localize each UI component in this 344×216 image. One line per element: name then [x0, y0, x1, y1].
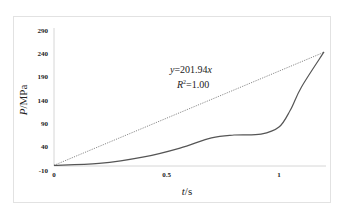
y-axis-label: P/MPa — [17, 85, 29, 117]
x-tick-labels: 00.51 — [52, 171, 281, 179]
y-tick-label: 290 — [38, 27, 49, 35]
r-squared: R2=1.00 — [176, 79, 209, 90]
fit-equation: y=201.94x — [169, 64, 213, 75]
y-tick-label: 140 — [38, 97, 49, 105]
x-axis-label: t/s — [182, 185, 192, 197]
y-tick-label: 240 — [38, 50, 49, 58]
y-tick-label: 40 — [41, 143, 49, 151]
x-tick-label: 1 — [277, 171, 281, 179]
y-tick-labels: 2902401901409040-10 — [38, 27, 49, 175]
y-tick-label: 90 — [41, 120, 49, 128]
y-tick-label: 190 — [38, 73, 49, 81]
y-tick-label: -10 — [39, 167, 49, 175]
line-chart: 2902401901409040-10 00.51 y=201.94x R2=1… — [0, 0, 344, 216]
x-tick-label: 0.5 — [162, 171, 171, 179]
x-tick-label: 0 — [52, 171, 56, 179]
